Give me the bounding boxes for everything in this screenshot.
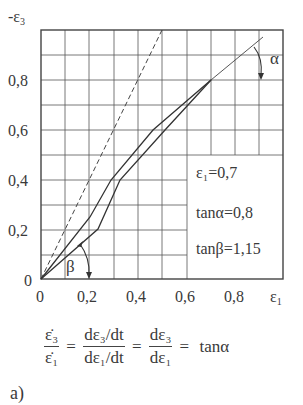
fraction-strain-rates: ε̇₃ ε̇₁ <box>44 325 59 369</box>
denominator: ε̇₁ <box>44 347 59 369</box>
beta-arrowhead-top-icon <box>77 241 83 247</box>
tan-alpha: tanα <box>199 337 229 357</box>
equals-sign: = <box>66 337 76 357</box>
lower-curve <box>41 80 211 279</box>
y-tick-label: 0,8 <box>8 72 28 89</box>
legend-eps1: ε₁=0,7 <box>196 164 237 181</box>
alpha-arc-icon <box>254 47 261 76</box>
beta-label: β <box>66 257 75 276</box>
y-tick-label: 0 <box>24 272 32 289</box>
numerator: dε₃ <box>149 325 173 347</box>
y-tick-label: 0,2 <box>8 222 28 239</box>
y-tick-label: 0,6 <box>8 122 28 139</box>
y-axis-label: -ε3 <box>8 8 25 27</box>
numerator: ε̇₃ <box>44 325 59 347</box>
denominator: dε₁ <box>149 347 173 369</box>
figure-label: a) <box>10 383 24 404</box>
x-tick-label: 0,4 <box>126 288 146 305</box>
numerator: dε₃/dt <box>83 325 125 347</box>
upper-curve <box>41 80 211 279</box>
x-tick-label: 0,6 <box>175 288 195 305</box>
x-tick-label: 0,8 <box>224 288 244 305</box>
beta-arrowhead-icon <box>86 272 92 279</box>
legend-tan-alpha: tanα=0,8 <box>196 204 253 221</box>
x-tick-label: 0,2 <box>77 288 97 305</box>
fraction-time-derivatives: dε₃/dt dε₁/dt <box>83 325 125 369</box>
x-axis-label: ε1 <box>270 288 282 307</box>
equals-sign: = <box>132 337 142 357</box>
x-tick-label: 0 <box>36 288 44 305</box>
y-tick-label: 0,4 <box>8 172 28 189</box>
dashed-reference-line <box>41 30 162 279</box>
alpha-label: α <box>270 49 279 68</box>
legend-tan-beta: tanβ=1,15 <box>196 240 261 258</box>
denominator: dε₁/dt <box>83 347 125 369</box>
equals-sign: = <box>180 337 190 357</box>
tangent-alpha-line <box>211 37 263 80</box>
beta-arc-icon <box>80 244 89 275</box>
fraction-differentials: dε₃ dε₁ <box>149 325 173 369</box>
rate-equation: ε̇₃ ε̇₁ = dε₃/dt dε₁/dt = dε₃ dε₁ = tanα <box>44 325 232 369</box>
